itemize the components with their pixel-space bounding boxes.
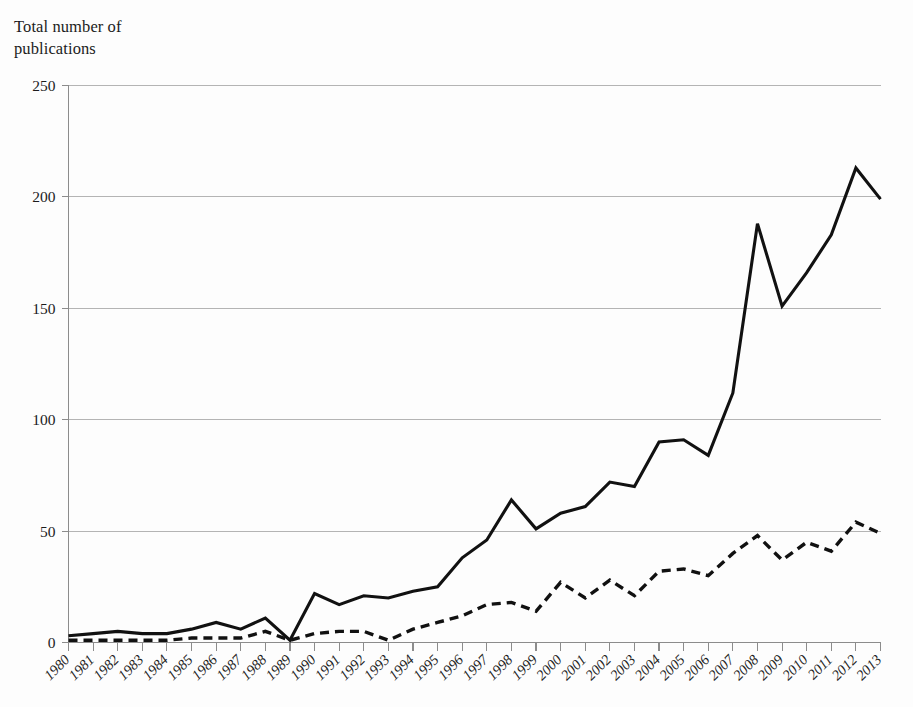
x-tick-label: 1983 bbox=[115, 651, 147, 683]
x-tick-label: 1985 bbox=[164, 651, 196, 683]
series-line-solid-series bbox=[69, 168, 881, 640]
x-tick-label: 2009 bbox=[754, 651, 786, 683]
x-tick-label: 2001 bbox=[558, 651, 590, 683]
x-tick-label: 2006 bbox=[681, 651, 713, 683]
x-tick-label-group: 1980198119821983198419851986198719881989… bbox=[41, 651, 885, 683]
x-tick-label: 1980 bbox=[41, 651, 73, 683]
x-tick-label: 1999 bbox=[508, 651, 540, 683]
x-tick-label: 1997 bbox=[459, 651, 491, 683]
x-tick-label: 1995 bbox=[410, 651, 442, 683]
x-tick-label: 1998 bbox=[484, 651, 516, 683]
y-tick-label: 200 bbox=[32, 188, 56, 205]
y-tick-label: 150 bbox=[32, 300, 56, 317]
x-tick-label: 2012 bbox=[828, 651, 860, 683]
x-tick-label: 2013 bbox=[853, 651, 885, 683]
y-tick-label: 100 bbox=[32, 411, 56, 428]
x-tick-label: 1981 bbox=[65, 651, 97, 683]
y-tick-group: 050100150200250 bbox=[32, 77, 68, 651]
x-tick-label: 1994 bbox=[385, 651, 417, 683]
y-tick-label: 250 bbox=[32, 77, 56, 94]
x-tick-label: 1982 bbox=[90, 651, 122, 683]
x-tick-label: 1986 bbox=[188, 651, 220, 683]
x-tick-label: 1987 bbox=[213, 651, 245, 683]
x-tick-label: 1989 bbox=[262, 651, 294, 683]
gridlines-group bbox=[69, 86, 881, 643]
x-tick-label: 2008 bbox=[730, 651, 762, 683]
x-tick-label: 1992 bbox=[336, 651, 368, 683]
y-tick-label: 50 bbox=[40, 523, 56, 540]
x-tick-label: 2007 bbox=[705, 651, 737, 683]
x-tick-label: 2005 bbox=[656, 651, 688, 683]
chart-figure: Total number of publications 05010015020… bbox=[0, 0, 913, 707]
x-tick-label: 2002 bbox=[582, 651, 614, 683]
x-axis-group bbox=[69, 86, 881, 651]
series-line-dashed-series bbox=[69, 522, 881, 640]
x-tick-label: 1990 bbox=[287, 651, 319, 683]
x-tick-label: 2011 bbox=[804, 651, 835, 682]
x-tick-label: 1993 bbox=[361, 651, 393, 683]
x-tick-label: 2004 bbox=[631, 651, 663, 683]
x-tick-label: 2003 bbox=[607, 651, 639, 683]
x-tick-label: 2000 bbox=[533, 651, 565, 683]
x-tick-label: 1984 bbox=[139, 651, 171, 683]
y-tick-label: 0 bbox=[48, 634, 56, 651]
x-tick-label: 1991 bbox=[311, 651, 343, 683]
x-tick-label: 1996 bbox=[434, 651, 466, 683]
x-tick-label: 2010 bbox=[779, 651, 811, 683]
x-tick-label: 1988 bbox=[238, 651, 270, 683]
data-series-group bbox=[69, 168, 881, 640]
line-chart-plot: 050100150200250 198019811982198319841985… bbox=[0, 0, 913, 707]
